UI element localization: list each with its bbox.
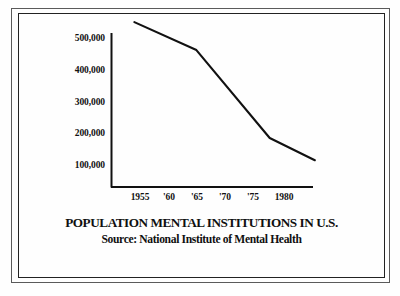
chart-title: POPULATION MENTAL INSTITUTIONS IN U.S. [24, 216, 379, 231]
y-tick-label-300000: 300,000 [52, 97, 105, 107]
x-tick-label-1980: 1980 [275, 192, 294, 202]
y-tick-label-200000: 200,000 [52, 128, 105, 138]
y-tick-label-500000: 500,000 [52, 33, 105, 43]
x-tick-label-1960: '60 [163, 192, 175, 202]
chart-axes [111, 33, 313, 188]
chart-plot-area: 500,000 400,000 300,000 200,000 100,000 … [0, 0, 400, 296]
x-tick-label-1975: '75 [247, 192, 259, 202]
chart-source-subtitle: Source: National Institute of Mental Hea… [24, 233, 379, 247]
line-chart-svg [0, 0, 400, 296]
x-tick-label-1970: '70 [219, 192, 231, 202]
y-tick-label-100000: 100,000 [52, 160, 105, 170]
x-tick-label-1965: '65 [191, 192, 203, 202]
y-tick-label-400000: 400,000 [52, 65, 105, 75]
chart-series-group [134, 22, 314, 160]
data-series-line [134, 22, 314, 160]
figure-root: 500,000 400,000 300,000 200,000 100,000 … [0, 0, 400, 296]
chart-caption-block: POPULATION MENTAL INSTITUTIONS IN U.S. S… [24, 216, 379, 247]
x-tick-label-1955: 1955 [131, 192, 150, 202]
